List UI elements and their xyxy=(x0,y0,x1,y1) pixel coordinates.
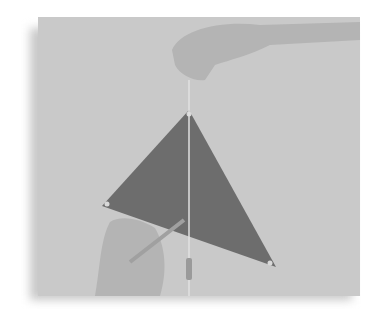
photograph xyxy=(38,17,360,296)
scene xyxy=(38,17,360,296)
top-hand xyxy=(172,22,360,80)
bottom-hand xyxy=(95,218,165,296)
hole-left xyxy=(105,202,110,207)
plumb-weight xyxy=(186,258,192,280)
hole-right xyxy=(268,261,273,266)
